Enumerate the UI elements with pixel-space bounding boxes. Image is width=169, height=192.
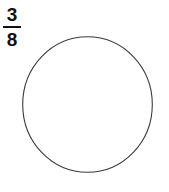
circle-svg: [22, 36, 153, 173]
fraction-circle-figure: 3 8: [0, 0, 169, 192]
circle-shape-container: [22, 36, 153, 173]
fraction-numerator: 3: [2, 5, 22, 25]
fraction-label: 3 8: [2, 5, 22, 49]
circle-outline: [23, 37, 153, 173]
fraction-bar-divider: [3, 26, 21, 28]
fraction-denominator: 8: [2, 29, 22, 49]
